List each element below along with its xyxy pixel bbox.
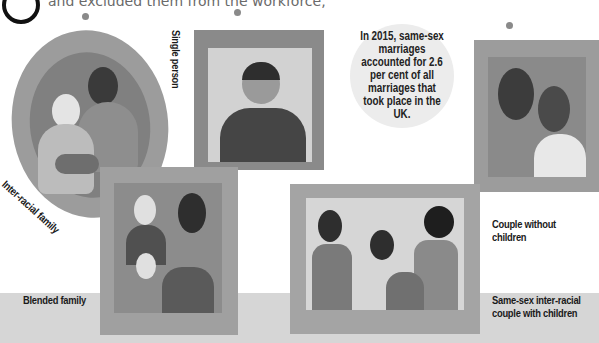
frame-single-person xyxy=(194,30,324,170)
label-blended-family: Blended family xyxy=(23,294,86,307)
label-single-person: Single person xyxy=(169,30,182,89)
nail-icon xyxy=(506,22,513,29)
fact-text: In 2015, same-sex marriages accounted fo… xyxy=(359,30,444,121)
fact-circle: In 2015, same-sex marriages accounted fo… xyxy=(350,24,454,128)
frame-same-sex-couple-with-children xyxy=(290,184,480,334)
person-dark-head xyxy=(88,67,118,105)
frame-couple-without-children xyxy=(474,40,599,192)
nail-icon xyxy=(82,13,89,20)
logo-icon xyxy=(2,0,40,24)
frame-blended-family xyxy=(100,167,238,335)
label-couple-without-children: Couple without children xyxy=(492,218,569,244)
label-same-sex-couple-with-children: Same-sex inter-racial couple with childr… xyxy=(492,294,594,320)
nail-icon xyxy=(234,9,241,16)
intro-text: and excluded them from the workforce, xyxy=(48,0,326,9)
person-light-head xyxy=(52,94,80,128)
